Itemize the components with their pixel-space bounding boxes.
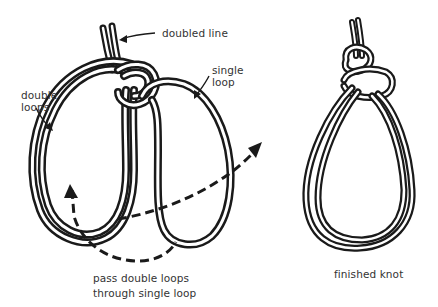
step-2-caption: finished knot	[334, 268, 403, 280]
knot-illustration	[0, 0, 438, 307]
label-double-loops-line-2: loops	[21, 101, 49, 113]
step-1-caption-line-2: through single loop	[93, 287, 196, 299]
knot-diagram: doubled line single loop double loops pa…	[0, 0, 438, 307]
single-loop-rope	[142, 81, 231, 244]
arrow-doubled-line-icon	[119, 35, 127, 43]
arrow-head-up-icon	[64, 184, 78, 198]
step-1-illustration	[32, 26, 262, 261]
label-single-loop-line-1: single	[212, 64, 244, 76]
label-doubled-line: doubled line	[162, 27, 228, 39]
step-2-illustration	[306, 20, 412, 248]
label-single-loop-line-2: loop	[212, 76, 235, 88]
label-double-loops-line-1: double	[21, 89, 57, 101]
step-1-caption-line-1: pass double loops	[93, 272, 189, 284]
